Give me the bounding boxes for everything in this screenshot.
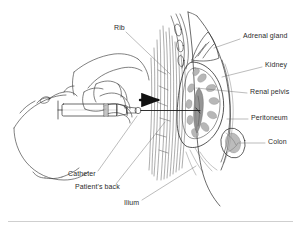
- label-renal-pelvis: Renal pelvis: [250, 88, 289, 96]
- figure-divider-rule: [8, 221, 293, 222]
- label-adrenal-gland: Adrenal gland: [243, 32, 288, 40]
- label-kidney: Kidney: [265, 61, 287, 69]
- label-colon: Colon: [268, 138, 287, 146]
- label-peritoneum: Peritoneum: [251, 114, 288, 122]
- label-rib: Rib: [114, 24, 125, 32]
- figure-container: Rib Adrenal gland Kidney Renal pelvis Pe…: [0, 0, 301, 229]
- kidney-leader: [222, 67, 262, 77]
- back-muscle-striations: [149, 26, 186, 180]
- label-catheter: Catheter: [68, 170, 96, 178]
- rib-shapes: [171, 14, 188, 69]
- operating-hand: [73, 54, 150, 123]
- adrenal-gland-leader: [214, 39, 240, 48]
- syringe-barrel: [62, 104, 127, 116]
- support-hand: [14, 86, 88, 180]
- patients-back-leader: [116, 122, 165, 184]
- catheter-leader: [98, 116, 137, 171]
- ilium-leader: [142, 166, 196, 200]
- adrenal-gland-shape: [192, 32, 219, 61]
- label-patients-back: Patient's back: [75, 183, 120, 191]
- connective-tissue: [186, 148, 217, 175]
- label-ilium: Ilium: [124, 199, 139, 207]
